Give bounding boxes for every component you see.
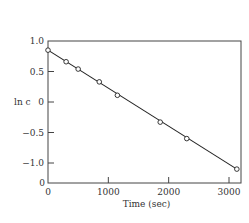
data-point (115, 93, 120, 98)
data-point (97, 80, 102, 85)
y-tick-label: 0.5 (30, 67, 45, 77)
y-axis-label: ln c (14, 97, 31, 107)
x-tick-label: 2000 (157, 187, 180, 197)
x-tick-label: 1000 (97, 187, 120, 197)
y-tick-label: 0 (38, 97, 44, 107)
plot-frame (48, 41, 241, 183)
data-point (184, 136, 189, 141)
y-tick-label: 1.0 (30, 36, 45, 46)
data-point (46, 48, 51, 53)
chart: 1.00.50−0.5−1.001000200030000Time (sec)l… (0, 0, 249, 223)
x-axis-label: Time (sec) (123, 199, 171, 209)
x-tick-label: 3000 (218, 187, 241, 197)
origin-label: 0 (39, 178, 45, 188)
y-tick-label: −1.0 (22, 158, 44, 168)
y-tick-label: −0.5 (22, 128, 44, 138)
data-point (158, 120, 163, 125)
data-point (64, 59, 69, 64)
data-point (235, 167, 240, 172)
x-tick-label: 0 (45, 187, 51, 197)
data-point (76, 67, 81, 72)
